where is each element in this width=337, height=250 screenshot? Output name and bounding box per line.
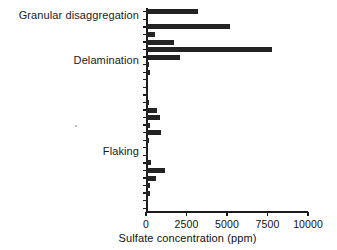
- bar: [146, 55, 180, 60]
- x-axis-tick-label: 7500: [256, 218, 280, 230]
- bar: [146, 115, 160, 120]
- bar: [146, 183, 150, 188]
- y-axis-label-flaking: Flaking: [103, 145, 139, 157]
- x-axis-tick-label: 0: [143, 218, 149, 230]
- bar: [146, 32, 155, 37]
- bar: [146, 40, 174, 45]
- y-axis-label-delamination: Delamination: [74, 54, 139, 66]
- y-axis-label-granular-disaggregation: Granular disaggregation: [19, 9, 139, 21]
- x-axis-tick: [145, 212, 146, 216]
- x-axis-tick: [186, 212, 187, 216]
- x-axis-tick-labels: 025005000750010000: [146, 218, 309, 232]
- x-axis-tick: [267, 212, 268, 216]
- x-axis-ticks: [146, 212, 309, 217]
- bar: [146, 160, 151, 165]
- sulfate-concentration-bar-chart: Granular disaggregation Delamination Fla…: [0, 0, 337, 250]
- bar: [146, 92, 148, 97]
- bar: [146, 77, 147, 82]
- bar: [146, 191, 150, 196]
- bar: [146, 198, 147, 203]
- x-axis-title: Sulfate concentration (ppm): [0, 232, 337, 244]
- bar: [146, 153, 148, 158]
- x-axis-tick: [226, 212, 227, 216]
- bar: [146, 145, 147, 150]
- bar: [146, 168, 165, 173]
- y-axis-labels: Granular disaggregation Delamination Fla…: [0, 8, 139, 212]
- bar: [146, 130, 161, 135]
- bar: [146, 176, 156, 181]
- bar: [146, 47, 272, 52]
- bar: [146, 70, 150, 75]
- x-axis-tick-label: 10000: [293, 218, 323, 230]
- bar: [146, 9, 198, 14]
- bar: [146, 24, 230, 29]
- plot-area: [146, 8, 308, 212]
- bar: [146, 62, 149, 67]
- scan-speck: [75, 125, 77, 127]
- x-axis-title-text: Sulfate concentration (ppm): [119, 232, 257, 244]
- bar: [146, 100, 149, 105]
- x-axis-tick: [307, 212, 308, 216]
- x-axis-tick-label: 5000: [215, 218, 239, 230]
- bar: [146, 123, 150, 128]
- x-axis-tick-label: 2500: [175, 218, 199, 230]
- bar: [146, 138, 149, 143]
- bar: [146, 108, 157, 113]
